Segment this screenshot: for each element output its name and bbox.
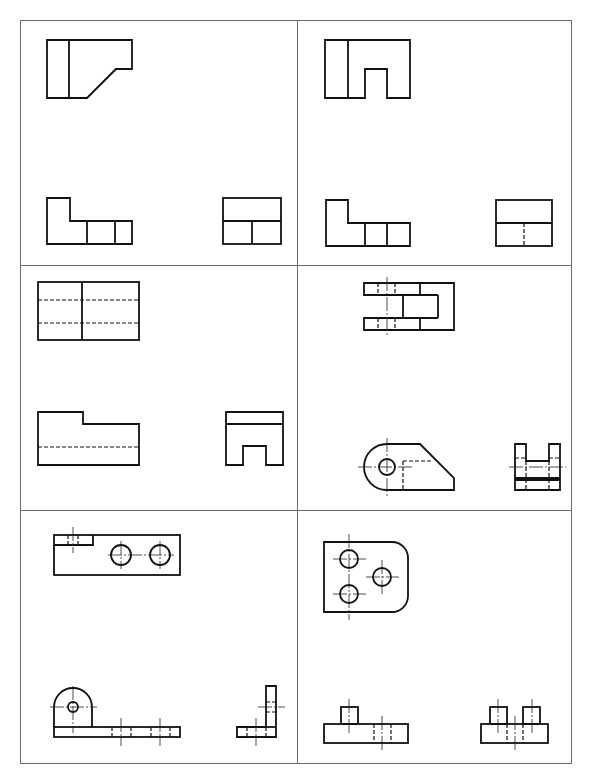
cell-3-side-view <box>226 412 283 465</box>
cell-5-top-view <box>54 527 180 575</box>
cell-1-top-view <box>47 198 132 244</box>
grid-frame <box>20 20 572 764</box>
cell-1-side-view <box>223 198 281 244</box>
cell-4-top-view <box>364 277 454 336</box>
cell-6-side-view <box>481 699 548 751</box>
cell-3-top-view <box>38 412 139 465</box>
cell-1 <box>47 40 281 244</box>
cell-2-side-view <box>496 200 552 246</box>
cell-4-side-view <box>509 444 566 490</box>
cell-3-front-view <box>38 282 139 340</box>
drawing-sheet <box>0 0 591 775</box>
cell-2-top-view <box>326 200 410 246</box>
cell-4-front-view <box>358 438 454 496</box>
cell-2 <box>325 40 552 246</box>
cell-6 <box>324 534 548 751</box>
cell-5-front-view <box>50 686 180 746</box>
cell-2-front-view <box>325 40 410 98</box>
cell-3 <box>38 282 283 465</box>
cell-5 <box>50 527 285 746</box>
cell-6-front-view <box>324 699 408 751</box>
cell-5-side-view <box>237 686 285 746</box>
cell-1-front-view <box>47 40 132 98</box>
cell-4 <box>358 277 566 496</box>
cell-6-top-view <box>324 534 408 620</box>
